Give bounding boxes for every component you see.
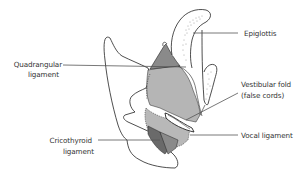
arytenoid-line [200,105,205,115]
posterior-cartilage-outline [202,30,217,105]
label-vestibular-line2: (false cords) [241,91,284,100]
label-vestibular-line1: Vestibular fold [241,80,291,89]
quadrangular-membrane [147,65,200,122]
label-quadrangular-line2: ligament [28,70,59,79]
larynx-illustration [0,0,305,180]
label-vocal-ligament: Vocal ligament [241,131,293,140]
epiglottis-outline [171,9,210,68]
label-quadrangular-line1: Quadrangular [8,60,62,69]
larynx-diagram: Epiglottis Quadrangular ligament Vestibu… [0,0,305,180]
label-cricothyroid-line2: ligament [63,147,94,156]
label-epiglottis: Epiglottis [244,29,276,38]
label-cricothyroid-line1: Cricothyroid [40,136,92,145]
